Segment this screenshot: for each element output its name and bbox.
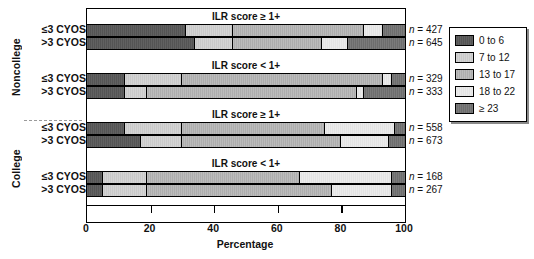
legend: 0 to 67 to 1213 to 1718 to 22≥ 23 [449,27,527,122]
sample-size-label: n = 267 [409,184,443,195]
panel-title: ILR score < 1+ [87,157,405,170]
bar-row-label: ≤3 CYOS [12,73,86,84]
x-axis-tick [214,206,215,213]
x-axis-tick-label: 60 [271,222,283,234]
legend-label: 18 to 22 [479,86,515,97]
bar-row-label: >3 CYOS [12,184,86,195]
bar-segment [125,74,182,85]
bar-segment [87,38,195,49]
bar-segment [103,185,148,196]
bar-segment [383,74,393,85]
bar-segment [322,38,347,49]
figure-root: Noncollege College ≤3 CYOS>3 CYOS≤3 CYOS… [0,0,534,259]
bar-segment [87,25,186,36]
stacked-bar [87,37,405,50]
bar-row-label: >3 CYOS [12,86,86,97]
x-axis-tick [151,206,152,213]
bar-segment [364,25,383,36]
panel-title: ILR score ≥ 1+ [87,108,405,121]
bar-segment [87,172,103,183]
stacked-bar [87,135,405,148]
x-axis-tick [278,206,279,213]
legend-swatch [455,52,474,63]
bar-row-label: ≤3 CYOS [12,24,86,35]
bar-segment [147,185,331,196]
bar-segment [147,172,300,183]
stacked-bar [87,73,405,86]
x-axis-title: Percentage [86,238,404,250]
stacked-bar [87,122,405,135]
sample-size-label: n = 427 [409,24,443,35]
bar-segment [341,136,389,147]
bar-segment [332,185,392,196]
bar-segment [392,74,405,85]
bar-segment [87,74,125,85]
bar-segment [364,87,405,98]
bar-segment [392,185,405,196]
bar-segment [125,87,147,98]
x-axis-tick-label: 0 [83,222,89,234]
legend-label: ≥ 23 [479,103,498,114]
bar-segment [182,74,382,85]
legend-item[interactable]: 0 to 6 [455,32,522,49]
bar-segment [383,25,405,36]
bar-segment [141,136,182,147]
bar-segment [233,38,322,49]
row-label-column: ≤3 CYOS>3 CYOS≤3 CYOS>3 CYOS≤3 CYOS>3 CY… [4,0,86,259]
sample-size-label: n = 168 [409,171,443,182]
legend-item[interactable]: ≥ 23 [455,100,522,117]
bar-segment [233,25,363,36]
sample-size-label: n = 329 [409,73,443,84]
legend-item[interactable]: 13 to 17 [455,66,522,83]
bar-segment [389,136,405,147]
bar-row-label: >3 CYOS [12,37,86,48]
legend-swatch [455,35,474,46]
sample-size-label: n = 333 [409,86,443,97]
bar-segment [147,87,357,98]
legend-swatch [455,103,474,114]
legend-label: 13 to 17 [479,69,515,80]
legend-label: 7 to 12 [479,52,510,63]
stacked-bar [87,171,405,184]
bar-segment [395,123,405,134]
bar-segment [182,136,341,147]
legend-swatch [455,69,474,80]
x-axis-tick-label: 40 [207,222,219,234]
bar-row-label: ≤3 CYOS [12,122,86,133]
bar-segment [392,172,405,183]
sample-size-label: n = 645 [409,37,443,48]
bar-segment [87,87,125,98]
bar-segment [186,25,234,36]
bar-segment [125,123,182,134]
stacked-bar [87,24,405,37]
bar-segment [182,123,325,134]
stacked-bar [87,184,405,197]
stacked-bar [87,86,405,99]
x-axis-tick-label: 100 [395,222,413,234]
legend-item[interactable]: 18 to 22 [455,83,522,100]
legend-item[interactable]: 7 to 12 [455,49,522,66]
bar-segment [103,172,148,183]
plot-area: ILR score ≥ 1+ILR score < 1+ILR score ≥ … [86,8,406,223]
sample-size-label: n = 673 [409,135,443,146]
legend-swatch [455,86,474,97]
sample-size-label: n = 558 [409,122,443,133]
x-axis-tick-label: 20 [144,222,156,234]
legend-label: 0 to 6 [479,35,504,46]
bar-row-label: >3 CYOS [12,135,86,146]
bar-segment [87,185,103,196]
bar-segment [87,123,125,134]
panel-title: ILR score ≥ 1+ [87,10,405,23]
x-axis-tick [341,206,342,213]
bar-segment [300,172,392,183]
x-axis-tick-label: 80 [335,222,347,234]
bar-segment [348,38,405,49]
panel-title: ILR score < 1+ [87,59,405,72]
bar-segment [325,123,395,134]
bar-segment [87,136,141,147]
bar-row-label: ≤3 CYOS [12,171,86,182]
x-axis-band [87,205,405,222]
bar-segment [195,38,233,49]
